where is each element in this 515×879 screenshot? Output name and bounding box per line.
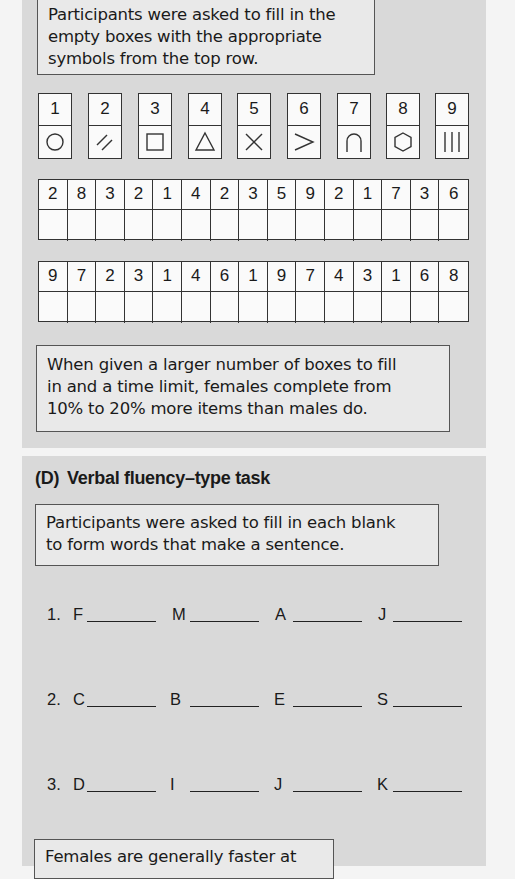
- grid-answer-cell[interactable]: [268, 292, 297, 323]
- grid-answer-cell[interactable]: [182, 210, 211, 241]
- grid-number-cell: 3: [125, 262, 154, 292]
- grid-answer-cell[interactable]: [411, 292, 440, 323]
- grid-answer-cell[interactable]: [354, 210, 383, 241]
- greater-than-icon: [292, 130, 316, 154]
- key-box-2: 2: [88, 93, 122, 159]
- grid-answer-cell[interactable]: [96, 210, 125, 241]
- result-box-d: Females are generally faster at: [34, 839, 334, 879]
- result-line: When given a larger number of boxes to f…: [47, 354, 449, 376]
- initial-letter: D: [73, 775, 85, 794]
- grid-number-cell: 4: [182, 180, 211, 210]
- grid-number-cell: 3: [239, 180, 268, 210]
- grid-answer-cell[interactable]: [325, 210, 354, 241]
- grid-answer-cell[interactable]: [296, 292, 325, 323]
- blank-line[interactable]: [190, 621, 259, 622]
- blank-line[interactable]: [190, 791, 259, 792]
- row-number: 3.: [47, 775, 61, 794]
- grid-answer-cell[interactable]: [439, 210, 468, 241]
- initial-letter: J: [274, 775, 282, 794]
- key-number: 8: [387, 94, 419, 126]
- grid-number-cell: 4: [325, 262, 354, 292]
- key-number: 9: [436, 94, 468, 126]
- initial-letter: K: [377, 775, 388, 794]
- grid-number-cell: 5: [268, 180, 297, 210]
- grid-number-cell: 1: [239, 262, 268, 292]
- blank-line[interactable]: [393, 791, 462, 792]
- instruction-line: symbols from the top row.: [48, 48, 374, 70]
- key-box-5: 5: [237, 93, 271, 159]
- grid-answer-cell[interactable]: [68, 292, 97, 323]
- grid-answer-cell[interactable]: [239, 210, 268, 241]
- blank-line[interactable]: [87, 706, 156, 707]
- result-line: Females are generally faster at: [45, 846, 333, 868]
- key-box-3: 3: [138, 93, 172, 159]
- blank-line[interactable]: [393, 706, 462, 707]
- grid-answer-cell[interactable]: [382, 292, 411, 323]
- grid-number-cell: 2: [125, 180, 154, 210]
- initial-letter: S: [377, 690, 388, 709]
- grid-number-cell: 3: [96, 180, 125, 210]
- grid-number-cell: 8: [68, 180, 97, 210]
- result-line: in and a time limit, females complete fr…: [47, 376, 449, 398]
- grid-number-cell: 1: [153, 180, 182, 210]
- grid-answer-cell[interactable]: [96, 292, 125, 323]
- coding-grid-1: 283214235921736: [38, 179, 469, 240]
- blank-line[interactable]: [87, 791, 156, 792]
- key-number: 4: [189, 94, 221, 126]
- grid-number-cell: 1: [354, 180, 383, 210]
- key-box-4: 4: [188, 93, 222, 159]
- key-number: 6: [288, 94, 320, 126]
- grid-answer-cell[interactable]: [182, 292, 211, 323]
- grid-number-cell: 7: [296, 262, 325, 292]
- key-number: 1: [39, 94, 71, 126]
- blank-line[interactable]: [293, 706, 362, 707]
- grid-answer-cell[interactable]: [382, 210, 411, 241]
- blank-line[interactable]: [293, 621, 362, 622]
- square-icon: [143, 130, 167, 154]
- grid-answer-cell[interactable]: [211, 292, 240, 323]
- grid-number-cell: 2: [211, 180, 240, 210]
- blank-line[interactable]: [393, 621, 462, 622]
- grid-answer-cell[interactable]: [153, 210, 182, 241]
- grid-answer-cell[interactable]: [125, 210, 154, 241]
- grid-number-cell: 2: [96, 262, 125, 292]
- instruction-line: to form words that make a sentence.: [46, 534, 438, 556]
- grid-answer-cell[interactable]: [153, 292, 182, 323]
- section-heading: (D)Verbal fluency–type task: [35, 468, 270, 489]
- grid-answer-cell[interactable]: [239, 292, 268, 323]
- grid-answer-cell[interactable]: [325, 292, 354, 323]
- blank-line[interactable]: [87, 621, 156, 622]
- grid-answer-cell[interactable]: [39, 292, 68, 323]
- grid-number-cell: 9: [39, 262, 68, 292]
- grid-answer-cell[interactable]: [411, 210, 440, 241]
- grid-number-cell: 6: [439, 180, 468, 210]
- triple-bar-icon: [440, 130, 464, 154]
- grid-answer-cell[interactable]: [296, 210, 325, 241]
- instruction-box-c: Participants were asked to fill in the e…: [37, 0, 375, 75]
- grid-answer-cell[interactable]: [125, 292, 154, 323]
- key-box-8: 8: [386, 93, 420, 159]
- grid-answer-cell[interactable]: [268, 210, 297, 241]
- key-number: 7: [338, 94, 370, 126]
- grid-number-cell: 6: [211, 262, 240, 292]
- cross-icon: [242, 130, 266, 154]
- grid-answer-cell[interactable]: [68, 210, 97, 241]
- blank-line[interactable]: [293, 791, 362, 792]
- instruction-line: empty boxes with the appropriate: [48, 26, 374, 48]
- coding-grid-2: 972314619743168: [38, 261, 469, 322]
- result-line: 10% to 20% more items than males do.: [47, 398, 449, 420]
- grid-number-cell: 8: [439, 262, 468, 292]
- grid-answer-cell[interactable]: [439, 292, 468, 323]
- section-label: (D): [35, 468, 59, 488]
- grid-number-cell: 1: [382, 262, 411, 292]
- circle-icon: [43, 130, 67, 154]
- grid-number-cell: 2: [39, 180, 68, 210]
- grid-answer-cell[interactable]: [354, 292, 383, 323]
- grid-number-cell: 9: [296, 180, 325, 210]
- arch-icon: [342, 130, 366, 154]
- initial-letter: E: [274, 690, 285, 709]
- grid-answer-cell[interactable]: [39, 210, 68, 241]
- grid-answer-cell[interactable]: [211, 210, 240, 241]
- blank-line[interactable]: [190, 706, 259, 707]
- key-number: 2: [89, 94, 121, 126]
